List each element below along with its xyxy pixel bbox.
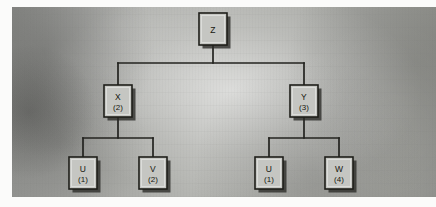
tree-node-w1[interactable]: W(4): [325, 157, 357, 193]
node-label: Z: [210, 25, 215, 35]
node-label: Y: [301, 92, 307, 102]
node-label: V: [150, 164, 156, 174]
node-label: X: [115, 92, 121, 102]
tree-node-v1[interactable]: V(2): [139, 157, 171, 193]
tree-node-y[interactable]: Y(3): [290, 85, 322, 121]
node-label: W: [335, 164, 343, 174]
node-count-label: (1): [78, 175, 88, 184]
figure-canvas: ZX(2)Y(3)U(1)V(2)U(1)W(4): [0, 0, 436, 207]
node-layer: ZX(2)Y(3)U(1)V(2)U(1)W(4): [69, 13, 357, 193]
node-count-label: (3): [299, 103, 309, 112]
edge-group-z: [118, 45, 304, 85]
node-label: U: [80, 164, 86, 174]
edge-group-y: [269, 117, 339, 157]
tree-node-z[interactable]: Z: [199, 13, 231, 49]
node-count-label: (2): [148, 175, 158, 184]
node-label: U: [266, 164, 272, 174]
node-count-label: (4): [334, 175, 344, 184]
node-count-label: (1): [264, 175, 274, 184]
tree-diagram: ZX(2)Y(3)U(1)V(2)U(1)W(4): [0, 0, 436, 207]
node-count-label: (2): [113, 103, 123, 112]
edge-group-x: [83, 117, 153, 157]
tree-node-u2[interactable]: U(1): [255, 157, 287, 193]
tree-node-x[interactable]: X(2): [104, 85, 136, 121]
tree-node-u1[interactable]: U(1): [69, 157, 101, 193]
